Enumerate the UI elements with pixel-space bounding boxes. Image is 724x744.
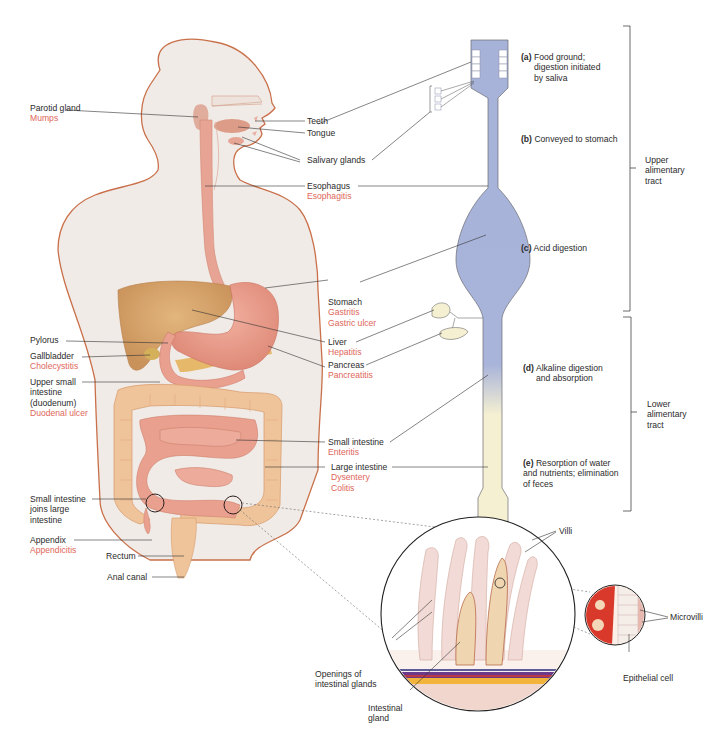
step-d: (d) Alkaline digestion and absorption (523, 363, 603, 384)
label-salivary-glands: Salivary glands (307, 155, 365, 165)
label-openings-intestinal-glands: Openings of intestinal glands (315, 669, 377, 690)
step-a: (a) Food ground; digestion initiated by … (521, 52, 600, 83)
label-appendix: Appendix Appendicitis (30, 535, 76, 556)
label-upper-alimentary-tract: Upper alimentary tract (645, 155, 685, 186)
step-c: (c) Acid digestion (521, 243, 587, 253)
label-stomach: Stomach Gastritis Gastric ulcer (328, 297, 376, 328)
label-esophagus: Esophagus Esophagitis (307, 181, 351, 202)
villi-inset (380, 517, 580, 724)
label-intestinal-gland: Intestinal gland (368, 703, 402, 724)
tract-brackets (623, 26, 637, 511)
label-anal-canal: Anal canal (107, 572, 147, 582)
microvilli-inset (585, 585, 668, 652)
label-large-intestine: Large intestine Dysentery Colitis (331, 462, 387, 493)
label-parotid-gland: Parotid gland Mumps (30, 103, 81, 124)
label-gallbladder: Gallbladder Cholecystitis (30, 351, 78, 372)
label-lower-alimentary-tract: Lower alimentary tract (647, 399, 687, 430)
step-b: (b) Conveyed to stomach (521, 134, 618, 144)
label-epithelial-cell: Epithelial cell (623, 673, 673, 683)
label-pylorus: Pylorus (30, 335, 59, 345)
label-tongue: Tongue (307, 128, 335, 138)
label-small-intestine: Small intestine Enteritis (328, 437, 384, 458)
label-duodenum: Upper small intestine (duodenum) Duodena… (30, 377, 88, 419)
label-ileocecal-junction: Small intestine joins large intestine (30, 494, 86, 525)
step-e: (e) Resorption of water and nutrients; e… (523, 458, 619, 489)
label-pancreas: Pancreas Pancreatitis (328, 360, 373, 381)
label-villi: Villi (559, 526, 572, 536)
label-liver: Liver Hepatitis (328, 337, 361, 358)
label-microvilli: Microvilli (670, 612, 703, 622)
label-teeth: Teeth (307, 116, 328, 126)
label-rectum: Rectum (106, 551, 136, 561)
